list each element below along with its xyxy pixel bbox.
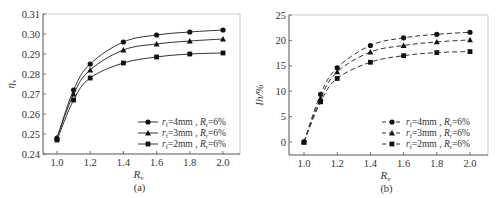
square-marker: [318, 99, 323, 104]
y-tick-label: 0.27: [22, 89, 40, 100]
y-tick-label: 0: [281, 137, 286, 148]
x-tick-label: 1.6: [397, 158, 410, 169]
legend-label: rf=3mm , Rr=6%: [406, 128, 470, 139]
x-tick-label: 2.0: [463, 158, 476, 169]
x-axis-title: Rv: [133, 168, 145, 182]
chart-a: 0.240.250.260.270.280.290.300.311.01.21.…: [4, 9, 240, 195]
square-marker: [154, 55, 159, 60]
square-marker: [71, 98, 76, 103]
circle-marker: [220, 27, 225, 32]
circle-marker: [467, 30, 472, 35]
x-tick-label: 1.0: [297, 158, 310, 169]
legend-square-icon: [390, 142, 395, 147]
y-tick-label: 15: [276, 60, 287, 71]
circle-marker: [121, 39, 126, 44]
legend-square-icon: [146, 142, 151, 147]
circle-marker: [187, 29, 192, 34]
legend-label: rf=4mm , Rr=6%: [162, 117, 226, 128]
circle-marker: [401, 35, 406, 40]
y-axis-title: Ih/%: [253, 84, 265, 106]
y-tick-label: 0.25: [22, 129, 40, 140]
square-marker: [335, 76, 340, 81]
x-tick-label: 1.0: [50, 157, 63, 168]
legend-label: rf=4mm , Rr=6%: [406, 117, 470, 128]
y-tick-label: 0.28: [22, 69, 40, 80]
circle-marker: [368, 43, 373, 48]
square-marker: [221, 51, 226, 56]
chart-b: 05101520251.01.21.41.61.82.0Rv(b)Ih/%rf=…: [253, 10, 488, 196]
square-marker: [302, 140, 307, 145]
legend-label: rf=2mm , Rr=6%: [406, 139, 470, 150]
caption: (a): [134, 182, 146, 194]
y-tick-label: 25: [276, 10, 287, 21]
circle-marker: [88, 61, 93, 66]
legend-label: rf=2mm , Rr=6%: [162, 139, 226, 150]
x-tick-label: 1.6: [150, 157, 163, 168]
y-tick-label: 0.26: [22, 109, 40, 120]
legend-label: rf=3mm , Rr=6%: [162, 128, 226, 139]
circle-marker: [154, 32, 159, 37]
y-tick-label: 0.29: [22, 49, 40, 60]
square-marker: [187, 52, 192, 57]
x-tick-label: 1.2: [84, 157, 97, 168]
triangle-marker: [367, 49, 373, 54]
circle-marker: [434, 32, 439, 37]
x-tick-label: 1.4: [364, 158, 378, 169]
x-tick-label: 1.4: [117, 157, 131, 168]
y-tick-label: 0.30: [22, 29, 40, 40]
triangle-marker: [467, 37, 473, 42]
y-tick-label: 0.24: [22, 149, 41, 160]
x-tick-label: 1.8: [430, 158, 443, 169]
y-tick-label: 10: [276, 86, 287, 97]
x-tick-label: 2.0: [216, 157, 229, 168]
y-axis-title: ηv: [4, 79, 18, 88]
x-tick-label: 1.8: [183, 157, 196, 168]
square-marker: [121, 61, 126, 66]
caption: (b): [380, 183, 393, 195]
x-axis-title: Rv: [380, 169, 392, 183]
y-tick-label: 20: [276, 35, 287, 46]
figure: 0.240.250.260.270.280.290.300.311.01.21.…: [0, 0, 496, 198]
square-marker: [55, 138, 60, 143]
legend-circle-icon: [389, 119, 394, 124]
square-marker: [368, 60, 373, 65]
y-tick-label: 0.31: [22, 9, 40, 20]
square-marker: [401, 53, 406, 58]
square-marker: [434, 50, 439, 55]
square-marker: [88, 76, 93, 81]
x-tick-label: 1.2: [331, 158, 344, 169]
y-tick-label: 5: [281, 111, 286, 122]
square-marker: [468, 49, 473, 54]
legend-circle-icon: [145, 119, 150, 124]
